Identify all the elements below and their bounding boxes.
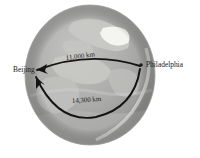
globe-diagram-svg: Beijing Philadelphia 11,000 km 14,300 km	[0, 0, 200, 158]
globe-terminator-shading	[25, 5, 155, 145]
earth-globe	[25, 5, 155, 146]
city-label-beijing: Beijing	[13, 65, 35, 74]
figure-container: Beijing Philadelphia 11,000 km 14,300 km	[0, 0, 200, 158]
philadelphia-marker-dot	[139, 63, 143, 67]
city-label-philadelphia: Philadelphia	[146, 60, 184, 69]
